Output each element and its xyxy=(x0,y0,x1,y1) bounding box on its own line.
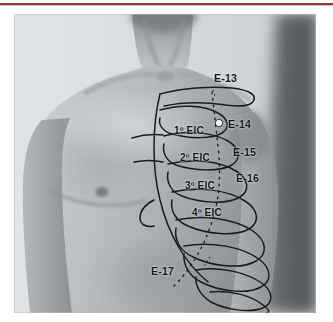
label-e15: E-15 xyxy=(233,146,256,158)
label-eic-3: 3º EIC xyxy=(185,180,215,191)
label-eic-4: 4º EIC xyxy=(192,207,222,218)
anatomical-photograph: E-13 E-14 E-15 E-16 E-17 1º EIC 2º EIC 3… xyxy=(14,14,316,313)
label-e16: E-16 xyxy=(236,172,259,184)
label-eic-1: 1º EIC xyxy=(174,125,204,136)
label-e14: E-14 xyxy=(228,118,251,130)
top-rule-highlight xyxy=(0,5,333,6)
label-e17: E-17 xyxy=(151,265,174,277)
label-eic-2: 2º EIC xyxy=(180,152,210,163)
figure-page: E-13 E-14 E-15 E-16 E-17 1º EIC 2º EIC 3… xyxy=(0,0,333,322)
label-e13: E-13 xyxy=(214,72,237,84)
nipple-left xyxy=(96,187,109,197)
point-marker-e14 xyxy=(216,120,222,126)
sternal-notch xyxy=(156,71,174,81)
